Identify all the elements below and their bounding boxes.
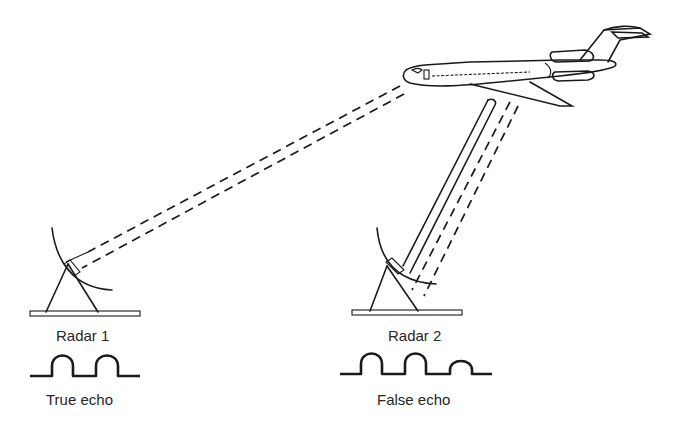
radar2-echo-label: False echo (377, 391, 450, 408)
false-echo-waveform (340, 354, 492, 375)
radar2-antenna-icon (352, 228, 462, 315)
radar1-echo-label: True echo (46, 391, 113, 408)
radar1-antenna-icon (30, 228, 140, 316)
cabin-windows (432, 72, 530, 76)
radar1-label: Radar 1 (56, 327, 109, 344)
airplane-icon (403, 26, 650, 106)
radar2-label: Radar 2 (388, 327, 441, 344)
radar-diagram (0, 0, 679, 430)
true-echo-waveform (30, 356, 140, 377)
radar1-beam (82, 86, 404, 268)
radar2-beam (403, 99, 518, 296)
